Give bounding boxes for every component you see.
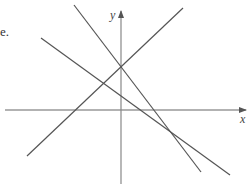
y-axis-label: y: [109, 8, 116, 22]
x-axis-label: x: [239, 112, 246, 126]
diagram: e. x y: [0, 0, 250, 187]
steep-falling-line: [74, 5, 201, 172]
graph-canvas: x y: [0, 0, 250, 187]
shallow-falling-line: [41, 38, 230, 175]
rising-line: [27, 8, 183, 156]
